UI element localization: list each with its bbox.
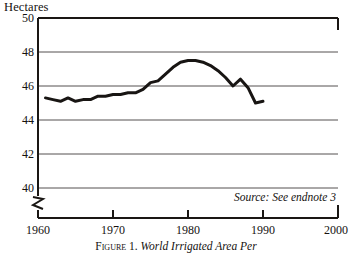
figure-caption: Figure 1. World Irrigated Area Per bbox=[0, 240, 352, 253]
x-axis-ticks bbox=[38, 210, 338, 218]
gridlines bbox=[38, 52, 338, 188]
plot-area bbox=[0, 0, 352, 254]
figure-root: Hectares 50 48 46 44 42 40 1960 1970 198… bbox=[0, 0, 352, 254]
axis-break-symbol bbox=[33, 197, 43, 209]
figure-caption-label: Figure 1. bbox=[95, 240, 137, 252]
data-series-line bbox=[46, 61, 264, 104]
figure-caption-title: World Irrigated Area Per bbox=[141, 240, 257, 252]
